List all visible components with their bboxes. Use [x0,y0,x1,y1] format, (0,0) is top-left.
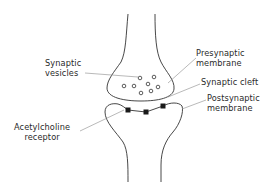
label-line: Acetylcholine [14,122,70,132]
label-line: Postsynaptic [207,93,260,103]
label-presynaptic-membrane: Presynaptic membrane [196,48,245,68]
label-synaptic-vesicles: Synaptic vesicles [45,58,81,78]
label-line: vesicles [45,68,81,78]
label-line: Synaptic cleft [201,77,258,87]
label-line: membrane [196,58,245,68]
acetylcholine-receptors [126,104,166,115]
label-acetylcholine-receptor: Acetylcholine receptor [14,122,70,142]
postsynaptic-muscle [105,103,183,182]
label-line: membrane [207,103,260,113]
label-line: Synaptic [45,58,81,68]
label-line: receptor [14,132,70,142]
label-postsynaptic-membrane: Postsynaptic membrane [207,93,260,113]
label-synaptic-cleft: Synaptic cleft [201,77,258,87]
leader-lines [80,58,206,131]
synaptic-vesicles [122,75,160,95]
presynaptic-terminal [107,14,174,101]
label-line: Presynaptic [196,48,245,58]
